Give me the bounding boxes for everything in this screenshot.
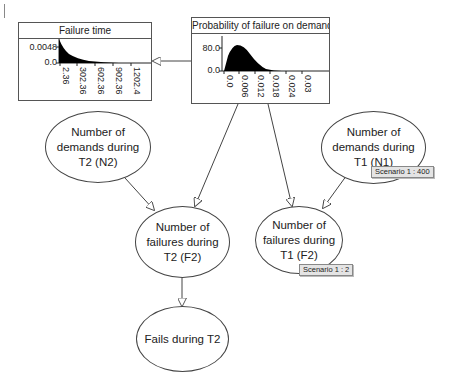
svg-text:0.0: 0.0 xyxy=(225,75,235,88)
arc-n2-to-f2-t2 xyxy=(125,178,154,210)
svg-text:0.0: 0.0 xyxy=(44,57,57,67)
svg-text:902.36: 902.36 xyxy=(114,67,124,95)
svg-text:602.36: 602.36 xyxy=(96,67,106,95)
scenario-badge-n1[interactable]: Scenario 1 : 400 xyxy=(371,166,434,178)
svg-text:0.024: 0.024 xyxy=(287,75,297,98)
failure-time-panel[interactable]: Failure time 0.0048 0.0 2.36 302.36 602.… xyxy=(18,22,152,101)
svg-text:2.36: 2.36 xyxy=(61,67,71,85)
node-demands-t2[interactable]: Number of demands during T2 (N2) xyxy=(45,111,151,183)
svg-text:0.006: 0.006 xyxy=(240,75,250,98)
svg-text:0.03: 0.03 xyxy=(303,75,313,93)
svg-text:0.018: 0.018 xyxy=(271,75,281,98)
svg-text:80.0: 80.0 xyxy=(202,43,220,53)
scenario-badge-f2-t1[interactable]: Scenario 1 : 2 xyxy=(299,264,353,276)
pfd-title: Probability of failure on demand xyxy=(192,18,329,34)
arc-pfd-to-f2-t2 xyxy=(195,104,238,206)
svg-text:0.012: 0.012 xyxy=(256,75,266,98)
svg-text:1202.4: 1202.4 xyxy=(132,67,142,95)
failure-time-title: Failure time xyxy=(19,23,151,39)
pfd-chart: 80.0 0.0 0.0 0.006 0.012 0.018 0.024 0.0… xyxy=(192,34,329,104)
node-failures-t2[interactable]: Number of failures during T2 (F2) xyxy=(135,206,230,278)
svg-text:0.0048: 0.0048 xyxy=(29,42,57,52)
arc-pfd-to-f2-t1 xyxy=(268,104,292,206)
failure-time-chart: 0.0048 0.0 2.36 302.36 602.36 902.36 120… xyxy=(19,39,151,101)
svg-text:302.36: 302.36 xyxy=(78,67,88,95)
svg-text:0.0: 0.0 xyxy=(207,65,220,75)
node-fails-t2[interactable]: Fails during T2 xyxy=(136,306,229,372)
pfd-panel[interactable]: Probability of failure on demand 80.0 0.… xyxy=(191,17,330,104)
